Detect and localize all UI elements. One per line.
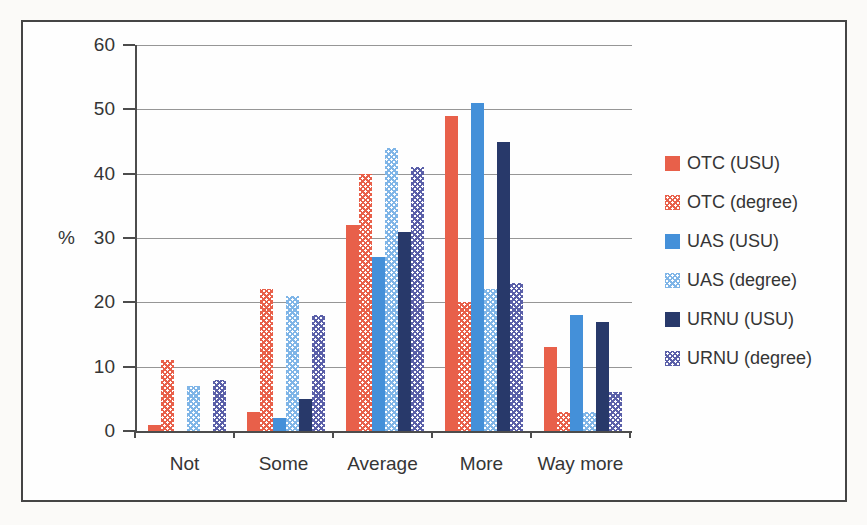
y-axis-tick-mark	[123, 108, 135, 110]
bar-otc-degree-some	[260, 289, 273, 431]
bar-urnu-usu-some	[299, 399, 312, 431]
x-axis-tick-mark	[134, 431, 136, 438]
bar-otc-usu-not	[148, 425, 161, 431]
y-axis-tick-mark	[123, 366, 135, 368]
legend-item-otc-usu: OTC (USU)	[665, 144, 812, 183]
bar-urnu-degree-more	[510, 283, 523, 431]
legend-label: OTC (USU)	[687, 153, 780, 174]
legend-swatch-icon	[665, 351, 680, 366]
bar-uas-usu-average	[372, 257, 385, 431]
bar-urnu-usu-more	[497, 142, 510, 432]
chart-frame: 0102030405060NotSomeAverageMoreWay more …	[21, 20, 847, 502]
legend-label: UAS (USU)	[687, 231, 779, 252]
legend: OTC (USU)OTC (degree)UAS (USU)UAS (degre…	[665, 144, 812, 378]
y-axis-tick-mark	[123, 301, 135, 303]
y-axis-tick-label-40: 40	[65, 163, 115, 185]
plot-area	[135, 45, 632, 433]
gridline-60	[137, 45, 632, 46]
legend-swatch-icon	[665, 195, 680, 210]
x-axis-category-label-way-more: Way more	[526, 453, 636, 475]
bar-urnu-degree-some	[312, 315, 325, 431]
y-axis-tick-label-50: 50	[65, 98, 115, 120]
bar-otc-degree-more	[458, 302, 471, 431]
bar-uas-degree-some	[286, 296, 299, 431]
legend-label: URNU (degree)	[687, 348, 812, 369]
x-axis-tick-mark	[332, 431, 334, 438]
y-axis-tick-label-60: 60	[65, 34, 115, 56]
legend-swatch-icon	[665, 234, 680, 249]
legend-swatch-icon	[665, 273, 680, 288]
x-axis-category-label-average: Average	[328, 453, 438, 475]
bar-uas-degree-way-more	[583, 412, 596, 431]
bar-urnu-degree-average	[411, 167, 424, 431]
bar-urnu-degree-not	[213, 380, 226, 431]
legend-label: URNU (USU)	[687, 309, 794, 330]
bar-uas-usu-some	[273, 418, 286, 431]
x-axis-tick-mark	[431, 431, 433, 438]
legend-label: UAS (degree)	[687, 270, 797, 291]
bar-otc-degree-not	[161, 360, 174, 431]
bar-otc-usu-way-more	[544, 347, 557, 431]
legend-label: OTC (degree)	[687, 192, 798, 213]
y-axis-tick-label-0: 0	[65, 420, 115, 442]
x-axis-category-label-some: Some	[229, 453, 339, 475]
x-axis-category-label-not: Not	[130, 453, 240, 475]
y-axis-tick-mark	[123, 44, 135, 46]
x-axis-tick-mark	[233, 431, 235, 438]
x-axis-tick-mark	[530, 431, 532, 438]
bar-uas-degree-average	[385, 148, 398, 431]
bar-otc-usu-some	[247, 412, 260, 431]
bar-otc-usu-average	[346, 225, 359, 431]
x-axis-category-label-more: More	[427, 453, 537, 475]
bar-urnu-usu-average	[398, 232, 411, 431]
bar-uas-degree-not	[187, 386, 200, 431]
bar-uas-usu-more	[471, 103, 484, 431]
y-axis-tick-mark	[123, 173, 135, 175]
bar-urnu-usu-way-more	[596, 322, 609, 431]
y-axis-tick-label-10: 10	[65, 356, 115, 378]
bar-uas-usu-way-more	[570, 315, 583, 431]
y-axis-tick-mark	[123, 237, 135, 239]
legend-item-uas-usu: UAS (USU)	[665, 222, 812, 261]
x-axis-tick-mark	[629, 431, 631, 438]
y-axis-unit-label: %	[58, 227, 75, 249]
legend-swatch-icon	[665, 312, 680, 327]
y-axis-tick-label-20: 20	[65, 291, 115, 313]
bar-otc-degree-way-more	[557, 412, 570, 431]
bar-otc-usu-more	[445, 116, 458, 431]
gridline-50	[137, 109, 632, 110]
bar-urnu-degree-way-more	[609, 392, 622, 431]
legend-item-otc-degree: OTC (degree)	[665, 183, 812, 222]
legend-item-urnu-usu: URNU (USU)	[665, 300, 812, 339]
legend-item-uas-degree: UAS (degree)	[665, 261, 812, 300]
bar-uas-degree-more	[484, 289, 497, 431]
bar-otc-degree-average	[359, 174, 372, 431]
chart-photo: { "chart_data": { "type": "bar", "title"…	[0, 0, 867, 525]
legend-item-urnu-degree: URNU (degree)	[665, 339, 812, 378]
legend-swatch-icon	[665, 156, 680, 171]
